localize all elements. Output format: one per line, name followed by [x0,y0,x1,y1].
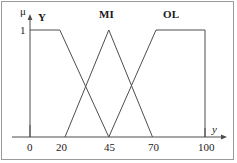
x-tick-label-45: 45 [104,142,115,153]
set-label-old: OL [163,9,179,20]
curve-old [109,30,205,137]
y-axis-label: μ [20,6,26,17]
x-tick-label-0: 0 [27,142,33,153]
curve-young [30,30,109,137]
y-axis-arrow-icon [28,14,33,20]
curve-middle [65,30,153,137]
x-tick-label-100: 100 [198,142,215,153]
x-tick-label-70: 70 [148,142,159,153]
x-axis-label: y [212,124,217,135]
fuzzy-membership-chart: μ 1 y Y MI OL 0 20 45 70 100 [0,0,237,163]
x-axis-arrow-icon [221,135,227,140]
set-label-middle: MI [99,9,114,20]
y-tick-label-1: 1 [20,25,26,36]
membership-plot [0,0,237,163]
set-label-young: Y [38,12,46,23]
x-tick-label-20: 20 [56,142,67,153]
